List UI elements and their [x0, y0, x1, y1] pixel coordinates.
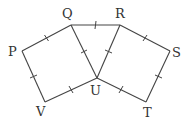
tick-rs [143, 35, 147, 41]
segment-tu [97, 78, 146, 102]
tick-qr [95, 21, 96, 29]
tick-pq [45, 35, 49, 41]
label-s: S [172, 45, 181, 60]
triangle-qru [71, 25, 120, 78]
label-p: P [8, 44, 17, 59]
label-v: V [35, 104, 46, 119]
label-q: Q [62, 6, 73, 21]
label-u: U [90, 83, 101, 98]
label-r: R [115, 6, 126, 21]
square-pquv [22, 25, 97, 102]
square-rstu [97, 25, 170, 102]
geometry-diagram: Q R P S U V T [0, 0, 194, 127]
point-labels: Q R P S U V T [8, 6, 181, 120]
label-t: T [143, 105, 152, 120]
